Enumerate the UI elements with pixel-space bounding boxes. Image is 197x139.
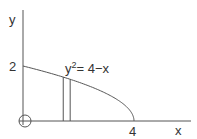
equation-rest: = 4−x	[77, 61, 110, 76]
curve-equation: y2= 4−x	[65, 60, 110, 76]
x-axis-label: x	[175, 123, 182, 138]
x-tick-label: 4	[129, 124, 136, 139]
y-tick-label: 2	[9, 59, 16, 74]
region-diagram: y x 2 4 y2= 4−x	[0, 0, 197, 139]
y-axis-label: y	[9, 12, 16, 27]
